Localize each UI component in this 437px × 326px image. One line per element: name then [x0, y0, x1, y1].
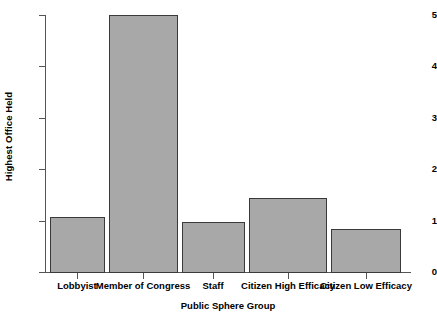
- x-tick-lobbyist: [77, 273, 78, 279]
- y-tick-label-5: 5: [403, 10, 437, 20]
- y-tick-2: [39, 169, 45, 170]
- y-tick-label-1: 1: [403, 216, 437, 226]
- y-axis-line: [45, 15, 46, 273]
- y-tick-4: [39, 66, 45, 67]
- y-tick-label-0: 0: [403, 267, 437, 277]
- y-axis-title: Highest Office Held: [0, 0, 18, 272]
- bar-lobbyist: [50, 217, 105, 273]
- y-tick-label-3: 3: [403, 113, 437, 123]
- y-tick-1: [39, 221, 45, 222]
- x-axis-title: Public Sphere Group: [45, 300, 411, 311]
- bar-member-of-congress: [109, 15, 178, 273]
- y-tick-0: [39, 272, 45, 273]
- y-tick-label-2: 2: [403, 164, 437, 174]
- x-tick-member-of-congress: [143, 273, 144, 279]
- bar-citizen-low-efficacy: [331, 229, 401, 273]
- y-tick-3: [39, 118, 45, 119]
- y-tick-label-4: 4: [403, 61, 437, 71]
- x-tick-citizen-high-efficacy: [288, 273, 289, 279]
- x-tick-staff: [213, 273, 214, 279]
- bar-chart: Highest Office Held 5 4 3 2 1 0 Lobbyist…: [0, 0, 437, 326]
- bar-staff: [182, 222, 245, 273]
- y-axis-title-text: Highest Office Held: [4, 91, 15, 181]
- y-tick-5: [39, 15, 45, 16]
- bar-citizen-high-efficacy: [249, 198, 327, 273]
- x-tick-label-citizen-low-efficacy: Citizen Low Efficacy: [311, 281, 421, 291]
- x-tick-citizen-low-efficacy: [366, 273, 367, 279]
